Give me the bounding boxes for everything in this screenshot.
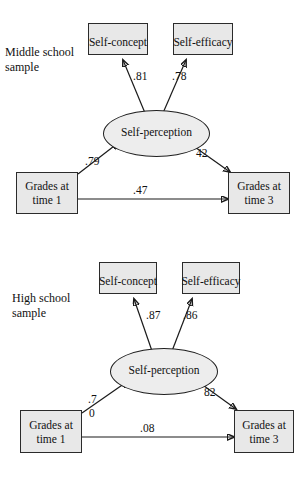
path-latent-to-selfconcept [134, 299, 152, 351]
node-self-perception-high [110, 348, 218, 395]
sample-label-high-school: High school sample [12, 291, 70, 320]
node-grades-time1-high [20, 410, 82, 453]
path-latent-to-selfefficacy [172, 299, 192, 351]
coefficient-latent-to-selfefficacy-high: .86 [183, 309, 197, 321]
node-grades-time1-middle [16, 172, 78, 214]
node-grades-time3-middle [228, 172, 290, 214]
node-self-efficacy-high [182, 262, 240, 294]
coefficient-latent-to-selfconcept-high: .87 [146, 309, 160, 321]
coefficient-grades1-to-latent-middle: .79 [85, 155, 99, 167]
node-self-perception-middle [103, 110, 210, 157]
node-self-efficacy-middle [173, 23, 233, 55]
path-latent-to-selfefficacy [163, 60, 186, 113]
panel-high-school: High school sample Self-concept Self-eff… [0, 243, 303, 483]
coefficient-latent-to-grades3-middle: 42 [196, 147, 208, 159]
node-self-concept-middle [88, 23, 148, 55]
coefficient-grades1-to-latent-part2-high: 0 [89, 407, 95, 419]
coefficient-latent-to-selfconcept-middle: .81 [133, 70, 147, 82]
path-latent-to-selfconcept [123, 60, 145, 113]
coefficient-grades1-to-grades3-high: .08 [140, 422, 154, 434]
panel-middle-school: Middle school sample Self-concept Self-e… [0, 0, 303, 243]
node-self-concept-high [99, 262, 157, 294]
sample-label-middle-school: Middle school sample [5, 45, 74, 74]
node-grades-time3-high [234, 410, 294, 453]
coefficient-grades1-to-grades3-middle: .47 [133, 184, 147, 196]
coefficient-latent-to-grades3-high: 82 [204, 386, 216, 398]
coefficient-latent-to-selfefficacy-middle: .78 [172, 70, 186, 82]
coefficient-grades1-to-latent-part1-high: .7 [88, 393, 97, 405]
